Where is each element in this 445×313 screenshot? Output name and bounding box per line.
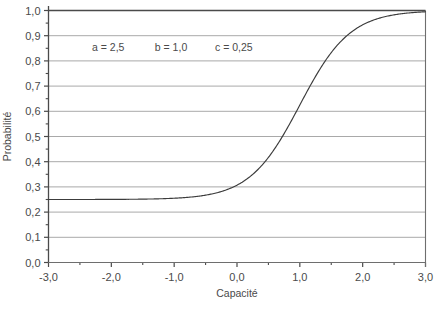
y-tick-label: 0,3 [25,181,40,193]
x-tick-label: 0,0 [229,271,244,283]
x-tick-label: 2,0 [355,271,370,283]
y-tick-label: 0,5 [25,131,40,143]
x-axis-title: Capacité [216,287,258,299]
chart-figure: 0,00,10,20,30,40,50,60,70,80,91,0 -3,0-2… [0,0,445,313]
x-tick-label: 3,0 [418,271,433,283]
y-tick-label: 0,0 [25,257,40,269]
x-tick-label: -2,0 [102,271,121,283]
y-tick-label: 0,9 [25,30,40,42]
x-tick-label: -3,0 [39,271,58,283]
y-tick-label: 0,2 [25,206,40,218]
y-tick-label: 0,8 [25,55,40,67]
y-tick-label: 0,4 [25,156,40,168]
probability-curve-chart: 0,00,10,20,30,40,50,60,70,80,91,0 -3,0-2… [0,0,445,313]
y-tick-label: 0,1 [25,231,40,243]
x-tick-label: -1,0 [165,271,184,283]
y-axis-title: Probabilité [1,112,13,162]
parameter-annotation: c = 0,25 [215,41,253,53]
y-tick-label: 1,0 [25,5,40,17]
x-tick-label: 1,0 [292,271,307,283]
parameter-annotation: b = 1,0 [155,41,188,53]
parameter-annotation: a = 2,5 [92,41,125,53]
y-tick-label: 0,7 [25,80,40,92]
parameter-annotation-group: a = 2,5b = 1,0c = 0,25 [92,41,253,53]
y-tick-label: 0,6 [25,105,40,117]
